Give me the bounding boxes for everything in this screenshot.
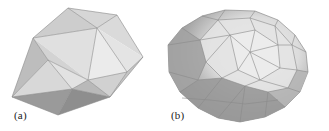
panel-b: (b): [160, 0, 329, 131]
panel-label-b: (b): [171, 109, 184, 121]
panel-a: (a): [0, 0, 160, 131]
panel-label-a: (a): [14, 109, 27, 121]
refined-ellipsoid-mesh: [160, 0, 329, 131]
